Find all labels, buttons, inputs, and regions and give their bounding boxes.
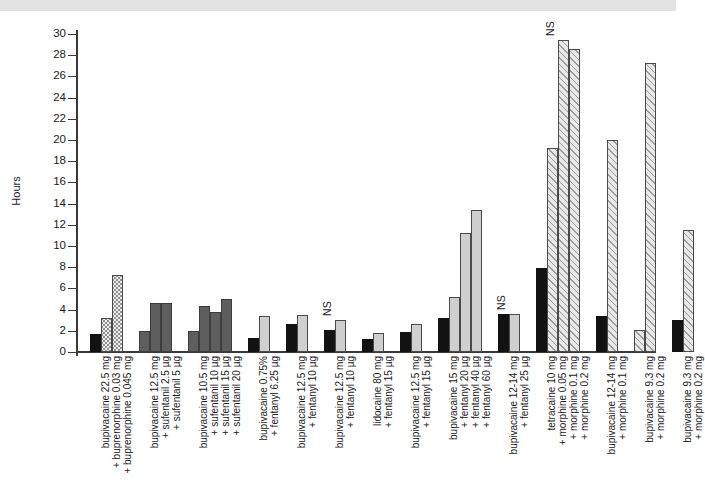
bar-group	[90, 34, 123, 352]
x-label-line: + morphine 0.2 mg	[579, 356, 591, 488]
y-tick-label: 6	[8, 287, 66, 288]
x-group-label: bupivacaine 12.5 mg+ fentanyl 10 µg	[324, 356, 346, 491]
bar[interactable]	[547, 148, 558, 352]
y-tick-mark	[68, 204, 76, 205]
y-axis-ticks: 024681012141618202224262830	[0, 0, 66, 360]
x-group-label: bupivacaine 12-14 mg+ fentanyl 25 µg	[498, 356, 520, 491]
bar[interactable]	[335, 320, 346, 352]
x-label-line: + sufentanil 20 µg	[231, 356, 243, 488]
bar[interactable]	[161, 303, 172, 352]
bar[interactable]	[188, 331, 199, 352]
x-group-label: bupivacaine 12-14 mg+ morphine 0.1 mg	[596, 356, 618, 491]
bar[interactable]	[112, 275, 123, 352]
bar[interactable]	[362, 339, 373, 352]
y-tick-label: 2	[8, 330, 66, 331]
bar-group	[596, 34, 618, 352]
bar[interactable]	[248, 338, 259, 352]
y-tick-mark	[68, 119, 76, 120]
bar[interactable]	[259, 316, 270, 352]
x-group-label: bupivacaine 10.5 mg+ sufentanil 10 µg+ s…	[188, 356, 232, 491]
bar-group: NS	[324, 34, 346, 352]
y-tick-label: 16	[8, 181, 66, 182]
x-group-label: bupivacaine 9.3 mg+ morphine 0.2 mg	[634, 356, 656, 491]
x-group-label: tetracaine 10 mg+ morphine 0.05 mg+ morp…	[536, 356, 580, 491]
y-tick-label: 14	[8, 203, 66, 204]
bar[interactable]	[139, 331, 150, 352]
bar[interactable]	[645, 63, 656, 352]
bar-group	[248, 34, 270, 352]
bar[interactable]	[509, 314, 520, 352]
ns-annotation: NS	[544, 21, 556, 36]
x-label-line: + fentanyl 15 µg	[421, 356, 433, 488]
bar[interactable]	[411, 324, 422, 352]
x-label-line: + fentanyl 15 µg	[383, 356, 395, 488]
x-group-label: lidocaine 80 mg+ fentanyl 15 µg	[362, 356, 384, 491]
y-tick-label: 8	[8, 266, 66, 267]
bar[interactable]	[596, 316, 607, 352]
x-label-line: + fentanyl 10 µg	[345, 356, 357, 488]
bar[interactable]	[286, 324, 297, 352]
x-label-line: + fentanyl 60 µg	[481, 356, 493, 488]
bar[interactable]	[297, 315, 308, 352]
y-tick-mark	[68, 310, 76, 311]
bar[interactable]	[634, 330, 645, 352]
x-label-line: + morphine 0.2 mg	[693, 356, 705, 488]
bar[interactable]	[101, 318, 112, 352]
bar-group	[672, 34, 694, 352]
bar[interactable]	[607, 140, 618, 352]
bar[interactable]	[683, 230, 694, 352]
y-tick-label: 30	[8, 33, 66, 34]
bar[interactable]	[498, 314, 509, 352]
bar[interactable]	[90, 334, 101, 352]
bar-group: NS	[498, 34, 520, 352]
bar[interactable]	[438, 318, 449, 352]
y-tick-label: 22	[8, 118, 66, 119]
x-group-label: bupivacaine 12.5 mg+ fentanyl 15 µg	[400, 356, 422, 491]
y-tick-mark	[68, 182, 76, 183]
bar[interactable]	[558, 40, 569, 352]
y-tick-mark	[68, 140, 76, 141]
x-label-line: + fentanyl 10 µg	[307, 356, 319, 488]
y-tick-mark	[68, 76, 76, 77]
bar-group	[438, 34, 482, 352]
bar[interactable]	[460, 233, 471, 352]
x-axis-labels: bupivacaine 22.5 mg+ buprenorphine 0.03 …	[76, 356, 656, 491]
x-group-label: bupivacaine 15 mg+ fentanyl 20 µg+ fenta…	[438, 356, 482, 491]
bar[interactable]	[672, 320, 683, 352]
y-tick-mark	[68, 331, 76, 332]
x-label-line: + morphine 0.1 mg	[617, 356, 629, 488]
y-tick-label: 28	[8, 54, 66, 55]
y-tick-mark	[68, 352, 76, 353]
x-group-label: bupivacaine 12.5 mg+ sufentanil 2.5 µg+ …	[139, 356, 172, 491]
bar-group	[286, 34, 308, 352]
bar[interactable]	[324, 330, 335, 352]
y-tick-mark	[68, 246, 76, 247]
y-tick-mark	[68, 55, 76, 56]
y-tick-mark	[68, 98, 76, 99]
bar-group	[139, 34, 172, 352]
bar[interactable]	[449, 297, 460, 352]
bar[interactable]	[150, 303, 161, 352]
bar-group: NS	[536, 34, 580, 352]
bar[interactable]	[199, 306, 210, 352]
x-group-label: bupivacaine 12.5 mg+ fentanyl 10 µg	[286, 356, 308, 491]
bar-group	[400, 34, 422, 352]
bar[interactable]	[536, 268, 547, 352]
x-label-line: + buprenorphine 0.045 mg	[122, 356, 134, 488]
y-tick-label: 20	[8, 139, 66, 140]
bar[interactable]	[373, 333, 384, 352]
y-tick-mark	[68, 34, 76, 35]
y-tick-mark	[68, 225, 76, 226]
ns-annotation: NS	[495, 295, 507, 310]
y-tick-label: 18	[8, 160, 66, 161]
y-tick-label: 12	[8, 224, 66, 225]
bar[interactable]	[210, 312, 221, 352]
x-label-line: + fentanyl 25 µg	[519, 356, 531, 488]
bar[interactable]	[471, 210, 482, 352]
x-label-line: + morphine 0.2 mg	[655, 356, 667, 488]
x-label-line: + sufentanil 5 µg	[171, 356, 183, 488]
y-tick-mark	[68, 288, 76, 289]
bar[interactable]	[221, 299, 232, 352]
bar[interactable]	[569, 49, 580, 352]
bar[interactable]	[400, 332, 411, 352]
